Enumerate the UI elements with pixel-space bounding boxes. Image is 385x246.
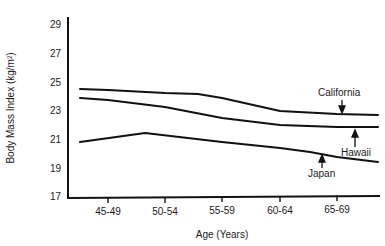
y-tick-label-19: 19 bbox=[50, 163, 62, 174]
y-tick-label-27: 27 bbox=[50, 48, 62, 59]
x-tick-label-55-59: 55-59 bbox=[209, 205, 235, 216]
series-annotation-label-japan: Japan bbox=[308, 168, 335, 179]
x-axis-title: Age (Years) bbox=[196, 229, 248, 240]
y-tick-label-23: 23 bbox=[50, 105, 62, 116]
y-tick-label-21: 21 bbox=[50, 134, 62, 145]
y-axis-title: Body Mass Index (kg/m²) bbox=[5, 52, 16, 163]
annotation-arrowhead-down-icon bbox=[339, 106, 345, 113]
x-tick-label-50-54: 50-54 bbox=[152, 206, 178, 217]
y-tick-label-17: 17 bbox=[50, 191, 62, 202]
y-tick-label-25: 25 bbox=[50, 77, 62, 88]
series-annotation-label-california: California bbox=[318, 87, 361, 98]
x-tick-label-65-69: 65-69 bbox=[324, 204, 350, 215]
bmi-by-age-line-chart: 29 27 25 23 21 19 17 45-49 50-54 55-59 6… bbox=[0, 0, 385, 246]
chart-plot-area: 29 27 25 23 21 19 17 45-49 50-54 55-59 6… bbox=[0, 0, 385, 246]
x-tick-label-45-49: 45-49 bbox=[95, 206, 121, 217]
y-tick-label-29: 29 bbox=[50, 19, 62, 30]
annotation-arrowhead-up-icon-japan bbox=[319, 155, 325, 162]
series-line-japan bbox=[80, 133, 378, 162]
series-line-hawaii bbox=[80, 98, 378, 127]
x-axis-line bbox=[68, 196, 379, 198]
x-tick-label-60-64: 60-64 bbox=[267, 205, 293, 216]
series-annotation-label-hawaii: Hawaii bbox=[341, 147, 371, 158]
annotation-arrowhead-up-icon-hawaii bbox=[352, 130, 358, 137]
